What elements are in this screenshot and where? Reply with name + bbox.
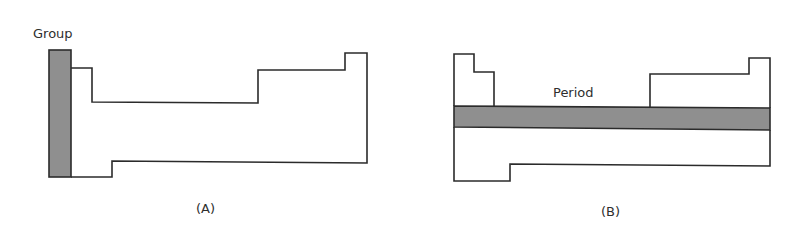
period-label: Period	[553, 85, 594, 100]
panel-b-lower-outline	[454, 127, 770, 181]
panel-a: Group (A)	[33, 26, 367, 216]
periodic-table-group-period-diagram: Group (A) Period (B)	[0, 0, 797, 233]
panel-a-caption: (A)	[196, 201, 215, 216]
panel-a-table-outline	[71, 53, 367, 177]
panel-b: Period (B)	[454, 54, 770, 219]
group-column-highlight	[49, 50, 71, 177]
panel-b-caption: (B)	[601, 204, 620, 219]
period-row-highlight	[454, 106, 770, 130]
panel-b-upper-left-outline	[454, 54, 494, 106]
group-label: Group	[33, 26, 73, 41]
panel-b-upper-right-outline	[650, 58, 770, 108]
